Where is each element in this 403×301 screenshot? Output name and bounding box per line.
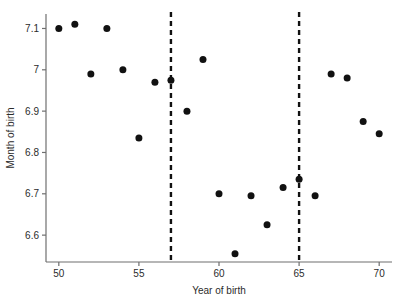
- y-tick-label: 6.9: [25, 106, 39, 117]
- x-tick-label: 60: [213, 268, 225, 279]
- y-tick-label: 7: [33, 64, 39, 75]
- x-axis-title: Year of birth: [192, 285, 246, 296]
- data-point: [151, 79, 158, 86]
- data-point: [360, 118, 367, 125]
- data-point: [183, 108, 190, 115]
- y-tick-label: 6.8: [25, 147, 39, 158]
- cutoff-dashed-lines: [171, 12, 299, 262]
- data-point: [216, 190, 223, 197]
- y-tick-label: 6.6: [25, 230, 39, 241]
- data-point: [55, 25, 62, 32]
- data-point: [135, 135, 142, 142]
- x-tick-labels: 5055606570: [53, 268, 385, 279]
- y-tick-label: 7.1: [25, 23, 39, 34]
- x-axis: 5055606570: [46, 262, 392, 279]
- scatter-chart-figure: 6.66.76.86.977.1 5055606570 Year of birt…: [0, 0, 403, 301]
- data-point: [248, 192, 255, 199]
- data-point: [376, 130, 383, 137]
- y-axis-title: Month of birth: [5, 107, 16, 168]
- y-axis: 6.66.76.86.977.1: [25, 14, 46, 262]
- y-tick-labels: 6.66.76.86.977.1: [25, 23, 39, 241]
- data-point: [280, 184, 287, 191]
- data-point: [264, 221, 271, 228]
- data-point: [296, 176, 303, 183]
- data-point: [119, 66, 126, 73]
- data-point: [167, 77, 174, 84]
- data-point: [199, 56, 206, 63]
- x-tick-label: 65: [294, 268, 306, 279]
- data-point: [312, 192, 319, 199]
- x-tick-label: 70: [374, 268, 386, 279]
- y-tick-label: 6.7: [25, 188, 39, 199]
- data-point: [328, 70, 335, 77]
- data-point-series: [55, 21, 382, 257]
- x-tick-label: 50: [53, 268, 65, 279]
- data-point: [232, 250, 239, 257]
- chart-canvas: 6.66.76.86.977.1 5055606570 Year of birt…: [0, 0, 403, 301]
- x-tick-label: 55: [133, 268, 145, 279]
- data-point: [87, 70, 94, 77]
- data-point: [103, 25, 110, 32]
- data-point: [71, 21, 78, 28]
- data-point: [344, 75, 351, 82]
